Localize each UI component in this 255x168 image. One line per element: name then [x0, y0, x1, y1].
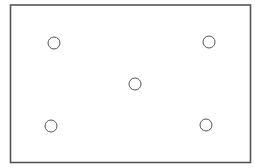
frame-rectangle: [11, 5, 251, 163]
circle-top-left: [48, 37, 60, 49]
circle-top-right: [203, 36, 215, 48]
circle-center: [129, 78, 141, 90]
quincunx-diagram: [0, 0, 255, 168]
circle-group: [45, 36, 215, 132]
circle-bottom-left: [45, 120, 57, 132]
circle-bottom-right: [200, 119, 212, 131]
